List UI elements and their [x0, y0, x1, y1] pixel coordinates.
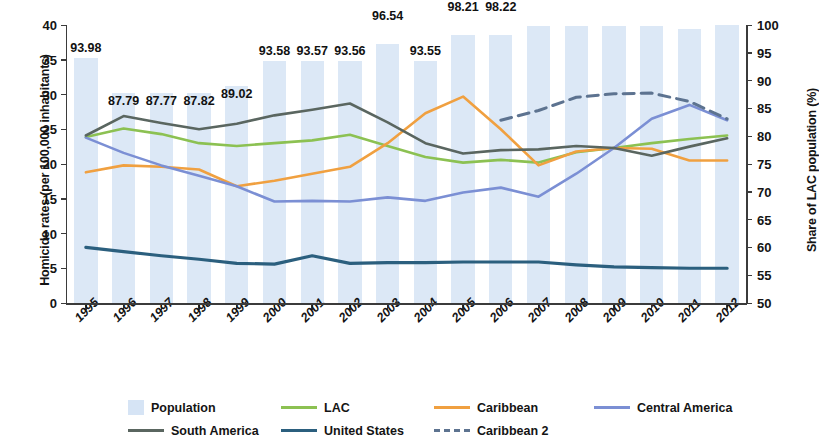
legend-item-caribbean-2[interactable]: Caribbean 2 [434, 424, 624, 438]
y-axis-left-tick-label: 20 [31, 158, 57, 171]
y-axis-right-tick-label: 60 [757, 241, 787, 254]
population-bar-label: 98.22 [478, 1, 524, 14]
legend-swatch-line-icon [434, 406, 470, 409]
x-axis-spine [66, 303, 747, 305]
legend-item-label: South America [171, 424, 259, 438]
population-bar-label: 93.56 [327, 45, 373, 58]
y-axis-right-tick-label: 90 [757, 75, 787, 88]
legend-swatch-line-icon [281, 429, 317, 432]
legend-item-label: Population [151, 401, 216, 415]
series-lines [67, 25, 746, 303]
legend-item-central-america[interactable]: Central America [594, 401, 784, 415]
y-axis-right-spine [746, 25, 748, 303]
y-axis-left-tick-label: 10 [31, 228, 57, 241]
y-axis-left-tick-label: 40 [31, 19, 57, 32]
legend-item-caribbean[interactable]: Caribbean [434, 401, 594, 415]
y-axis-left-tick-label: 0 [31, 297, 57, 310]
legend-swatch-box-icon [128, 400, 144, 415]
legend-item-south-america[interactable]: South America [128, 424, 281, 438]
y-axis-left-tick-label: 35 [31, 54, 57, 67]
y-axis-right-tick-label: 85 [757, 102, 787, 115]
y-axis-left-tick-label: 15 [31, 193, 57, 206]
legend-swatch-dashed-line-icon [434, 429, 470, 432]
y-axis-right-tick-label: 100 [757, 19, 787, 32]
legend-item-label: Central America [637, 401, 732, 415]
y-axis-right-tick-label: 75 [757, 158, 787, 171]
legend-item-label: Caribbean [477, 401, 538, 415]
legend-item-label: United States [324, 424, 404, 438]
legend-item-lac[interactable]: LAC [281, 401, 434, 415]
y-axis-right-title: Share of LAC population (%) [805, 20, 819, 320]
legend-item-label: LAC [324, 401, 350, 415]
y-axis-right-tick-label: 80 [757, 130, 787, 143]
legend-item-united-states[interactable]: United States [281, 424, 434, 438]
legend-row-2: South AmericaUnited StatesCaribbean 2 [128, 419, 788, 442]
y-axis-right-tick-label: 70 [757, 186, 787, 199]
y-axis-right-tick-label: 95 [757, 47, 787, 60]
plot-area [67, 25, 746, 303]
legend-swatch-line-icon [281, 406, 317, 409]
series-line-caribbean [86, 97, 727, 187]
population-bar-label: 93.98 [63, 42, 109, 55]
legend-row-1: PopulationLACCaribbeanCentral America [128, 396, 788, 419]
legend-item-label: Caribbean 2 [477, 424, 549, 438]
population-bar-label: 93.55 [402, 45, 448, 58]
y-axis-left-tick-label: 30 [31, 89, 57, 102]
legend-swatch-line-icon [128, 429, 164, 432]
population-bar-label: 96.54 [365, 10, 411, 23]
y-axis-right-tick-label: 55 [757, 269, 787, 282]
series-line-central-america [86, 105, 727, 202]
y-axis-right-tick-label: 50 [757, 297, 787, 310]
y-axis-right-tick-label: 65 [757, 214, 787, 227]
chart-legend: PopulationLACCaribbeanCentral America So… [128, 396, 788, 442]
series-line-united-states [86, 247, 727, 268]
y-axis-left-spine [66, 25, 68, 303]
y-axis-left-tick-label: 25 [31, 123, 57, 136]
y-axis-left-tick-label: 5 [31, 262, 57, 275]
population-bar-label: 89.02 [214, 88, 260, 101]
legend-item-population[interactable]: Population [128, 400, 281, 415]
legend-swatch-line-icon [594, 406, 630, 409]
